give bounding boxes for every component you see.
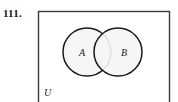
set-b-circle: [94, 28, 142, 76]
venn-diagram-figure: 111. A B U: [0, 0, 178, 102]
universal-set-label: U: [44, 87, 52, 98]
venn-diagram-svg: A B U: [0, 0, 178, 102]
set-a-label: A: [78, 47, 86, 58]
venn-diagram-canvas: A B U: [0, 0, 178, 102]
set-b-label: B: [121, 47, 127, 58]
